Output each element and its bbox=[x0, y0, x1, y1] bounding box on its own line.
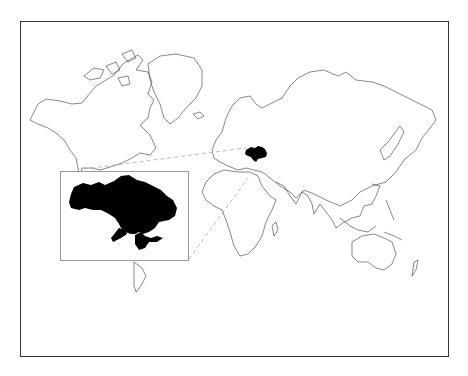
south-asia-outline bbox=[276, 182, 380, 228]
iceland-outline bbox=[193, 112, 204, 119]
ukraine-shape-large bbox=[69, 175, 177, 234]
ukraine-inset-map bbox=[61, 172, 188, 260]
africa-outline bbox=[202, 170, 276, 256]
japan-outline bbox=[380, 126, 404, 160]
north-america-outline bbox=[30, 55, 156, 175]
australia-outline bbox=[352, 234, 396, 270]
leader-line-bottom bbox=[189, 178, 248, 259]
arctic-islands-outline bbox=[84, 50, 136, 86]
madagascar-outline bbox=[272, 222, 278, 236]
south-america-outline bbox=[134, 262, 146, 292]
ukraine-west-coast bbox=[111, 228, 127, 242]
ukraine-highlight-small bbox=[245, 146, 267, 162]
ukraine-inset bbox=[60, 171, 189, 261]
crimea-shape bbox=[135, 232, 163, 250]
europe-outline bbox=[212, 70, 436, 206]
new-zealand-outline bbox=[412, 260, 418, 276]
leader-line-top bbox=[84, 148, 246, 169]
southeast-asia-islands-outline bbox=[340, 200, 402, 240]
